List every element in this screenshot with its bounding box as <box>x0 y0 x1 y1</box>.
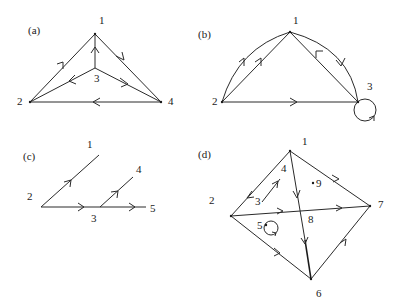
node-9-dot <box>312 182 314 184</box>
node-4-dot <box>160 101 162 103</box>
node-5-dot <box>265 224 267 226</box>
edge-3-1 <box>290 32 358 102</box>
node-label-4: 4 <box>281 162 287 174</box>
node-label-2: 2 <box>212 95 218 107</box>
edge-1-6-lower <box>305 240 311 279</box>
panel-c: (c) 1 2 3 4 5 <box>23 138 156 224</box>
node-label-4: 4 <box>136 163 142 175</box>
node-label-5: 5 <box>150 202 156 214</box>
edge-3-4 <box>95 68 161 102</box>
node-label-1: 1 <box>293 14 299 26</box>
edge-2-6 <box>231 216 311 279</box>
node-3-dot <box>357 101 359 103</box>
edge-3-4 <box>100 177 133 207</box>
node-label-3: 3 <box>367 80 373 92</box>
node-1-dot <box>289 31 291 33</box>
directed-graphs-figure: (a) 1 2 3 4 (b) <box>0 0 404 308</box>
panel-b: (b) 1 2 3 <box>198 14 376 121</box>
edge-1-7 <box>290 151 370 206</box>
node-label-1: 1 <box>99 14 105 26</box>
node-2-dot <box>29 101 31 103</box>
node-2-dot <box>230 215 232 217</box>
edge-1-2 <box>231 151 290 216</box>
edge-3-2 <box>30 68 95 102</box>
node-label-9: 9 <box>316 177 322 189</box>
panel-label-c: (c) <box>23 150 36 163</box>
node-2-dot <box>221 101 223 103</box>
edge-1-4 <box>95 34 161 102</box>
edge-2-1-straight <box>222 32 290 102</box>
panel-a: (a) 1 2 3 4 <box>17 14 174 107</box>
node-label-3: 3 <box>94 72 100 84</box>
arrow-icon <box>277 208 283 214</box>
node-label-3: 3 <box>255 195 261 207</box>
node-label-8: 8 <box>308 213 314 225</box>
node-label-2: 2 <box>27 190 33 202</box>
node-label-2: 2 <box>17 95 23 107</box>
edge-2-1 <box>41 155 99 207</box>
node-label-1: 1 <box>87 138 93 150</box>
node-label-7: 7 <box>378 198 384 210</box>
node-7-dot <box>369 205 371 207</box>
panel-d: (d) 1 2 3 4 5 6 7 8 <box>198 135 384 299</box>
arrow-icon <box>316 51 323 58</box>
panel-label-d: (d) <box>198 148 211 161</box>
node-label-3: 3 <box>91 212 97 224</box>
node-label-5: 5 <box>257 219 263 231</box>
panel-label-b: (b) <box>198 28 211 41</box>
node-label-6: 6 <box>316 287 322 299</box>
node-label-2: 2 <box>209 194 215 206</box>
node-1-dot <box>94 33 96 35</box>
node-1-dot <box>289 150 291 152</box>
node-label-1: 1 <box>302 135 308 147</box>
node-6-dot <box>310 278 312 280</box>
panel-label-a: (a) <box>28 24 41 37</box>
node-label-4: 4 <box>168 95 174 107</box>
arrow-icon <box>116 52 124 60</box>
